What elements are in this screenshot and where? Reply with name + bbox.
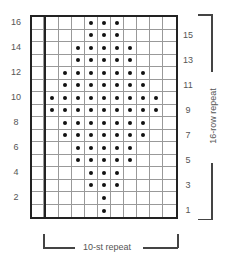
chart-cell <box>150 30 163 43</box>
purl-dot-icon <box>76 46 80 50</box>
chart-cell <box>98 92 111 105</box>
knitting-chart-grid <box>30 15 178 219</box>
chart-cell <box>59 92 72 105</box>
purl-dot-icon <box>128 46 132 50</box>
chart-cell <box>150 117 163 130</box>
row-number-label: 5 <box>178 155 198 165</box>
chart-cell <box>46 105 59 118</box>
purl-dot-icon <box>76 146 80 150</box>
chart-cell <box>32 192 44 205</box>
purl-dot-icon <box>76 83 80 87</box>
chart-cell <box>111 30 124 43</box>
chart-cell <box>124 205 137 218</box>
chart-cell <box>32 67 44 80</box>
chart-cell <box>72 192 85 205</box>
purl-dot-icon <box>63 96 67 100</box>
chart-cell <box>137 55 150 68</box>
purl-dot-icon <box>115 158 119 162</box>
chart-cell <box>163 192 176 205</box>
chart-cell <box>32 30 44 43</box>
chart-cell <box>124 67 137 80</box>
purl-dot-icon <box>89 158 93 162</box>
row-number-label: 6 <box>6 142 26 152</box>
purl-dot-icon <box>89 33 93 37</box>
purl-dot-icon <box>128 96 132 100</box>
chart-cell <box>163 80 176 93</box>
chart-cell <box>150 142 163 155</box>
chart-cell <box>85 130 98 143</box>
chart-cell <box>150 155 163 168</box>
purl-dot-icon <box>102 196 106 200</box>
chart-cell <box>85 205 98 218</box>
purl-dot-icon <box>102 183 106 187</box>
purl-dot-icon <box>102 33 106 37</box>
row-number-label: 2 <box>6 192 26 202</box>
purl-dot-icon <box>141 133 145 137</box>
chart-cell <box>111 130 124 143</box>
chart-cell <box>72 180 85 193</box>
purl-dot-icon <box>128 158 132 162</box>
chart-cell <box>85 42 98 55</box>
chart-cell <box>59 167 72 180</box>
purl-dot-icon <box>76 71 80 75</box>
purl-dot-icon <box>89 146 93 150</box>
purl-dot-icon <box>115 96 119 100</box>
chart-cell <box>137 142 150 155</box>
chart-cell <box>72 80 85 93</box>
purl-dot-icon <box>76 121 80 125</box>
chart-cell <box>150 42 163 55</box>
chart-cell <box>137 30 150 43</box>
chart-cell <box>124 105 137 118</box>
purl-dot-icon <box>89 71 93 75</box>
chart-cell <box>98 155 111 168</box>
row-repeat-bracket-upper-line <box>211 14 213 72</box>
chart-cell <box>98 180 111 193</box>
chart-cell <box>111 17 124 30</box>
purl-dot-icon <box>115 108 119 112</box>
chart-cell <box>32 17 44 30</box>
purl-dot-icon <box>50 96 54 100</box>
row-number-label: 3 <box>178 180 198 190</box>
chart-cell <box>85 192 98 205</box>
purl-dot-icon <box>128 121 132 125</box>
chart-cell <box>98 67 111 80</box>
chart-cell <box>124 30 137 43</box>
chart-cell <box>111 80 124 93</box>
purl-dot-icon <box>63 83 67 87</box>
chart-cell <box>85 67 98 80</box>
chart-cell <box>150 55 163 68</box>
row-repeat-label: 16-row repeat <box>208 81 218 151</box>
chart-cell <box>32 155 44 168</box>
row-number-label: 15 <box>178 30 198 40</box>
chart-cell <box>137 192 150 205</box>
chart-cell <box>46 155 59 168</box>
chart-cell <box>150 105 163 118</box>
purl-dot-icon <box>102 96 106 100</box>
purl-dot-icon <box>89 83 93 87</box>
row-number-label: 10 <box>6 92 26 102</box>
chart-cell <box>163 30 176 43</box>
purl-dot-icon <box>141 83 145 87</box>
chart-cell <box>72 130 85 143</box>
chart-cell <box>72 142 85 155</box>
row-number-label: 13 <box>178 55 198 65</box>
row-number-label: 9 <box>178 105 198 115</box>
purl-dot-icon <box>63 71 67 75</box>
chart-cell <box>46 142 59 155</box>
chart-cell <box>163 167 176 180</box>
chart-cell <box>46 55 59 68</box>
purl-dot-icon <box>102 71 106 75</box>
chart-cell <box>137 155 150 168</box>
chart-cell <box>98 117 111 130</box>
chart-cell <box>32 130 44 143</box>
purl-dot-icon <box>115 33 119 37</box>
purl-dot-icon <box>102 21 106 25</box>
chart-cell <box>137 80 150 93</box>
chart-cell <box>137 105 150 118</box>
chart-cell <box>59 67 72 80</box>
chart-cell <box>137 67 150 80</box>
chart-cell <box>124 42 137 55</box>
chart-cell <box>59 155 72 168</box>
chart-cell <box>46 205 59 218</box>
purl-dot-icon <box>89 121 93 125</box>
